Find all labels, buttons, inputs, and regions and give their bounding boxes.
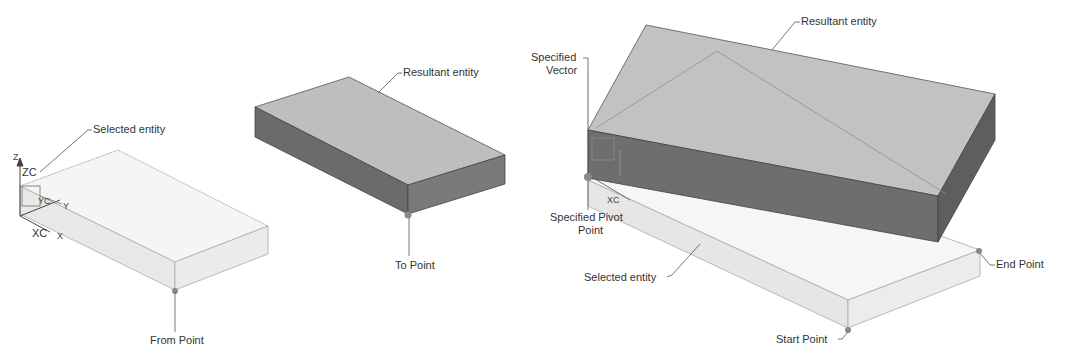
selected-entity-box-left (20, 150, 268, 290)
label-start-point: Start Point (776, 333, 827, 345)
leader-specified-vector (583, 58, 588, 72)
axis-x: X (57, 231, 63, 241)
label-specified-vector-line2: Vector (546, 64, 578, 76)
axis-xc: XC (32, 227, 47, 239)
label-selected-entity-right: Selected entity (584, 271, 657, 283)
axis-yc: YC (38, 196, 51, 206)
leader-end-point (980, 253, 995, 265)
label-pivot-point-line2: Point (578, 224, 603, 236)
axis-xc-right: XC (607, 195, 620, 205)
axis-y: Y (63, 201, 69, 211)
label-selected-entity-left: Selected entity (93, 123, 166, 135)
leader-resultant-middle (378, 73, 402, 93)
end-point-marker (976, 248, 982, 254)
label-from-point: From Point (150, 334, 204, 346)
label-resultant-entity-middle: Resultant entity (403, 66, 479, 78)
label-resultant-entity-right: Resultant entity (801, 15, 877, 27)
to-point-marker (405, 212, 412, 219)
diagram-canvas: Z ZC YC Y XC X Selected entity From Poin… (0, 0, 1065, 357)
label-end-point: End Point (996, 258, 1044, 270)
pivot-point-marker (584, 173, 592, 181)
resultant-entity-box-middle (255, 77, 505, 214)
label-specified-vector-line1: Specified (531, 51, 576, 63)
axis-zc: ZC (22, 166, 37, 178)
label-pivot-point-line1: Specified Pivot (550, 211, 623, 223)
axis-z: Z (13, 152, 19, 162)
leader-start-point (838, 332, 848, 339)
leader-resultant-right (772, 22, 800, 50)
label-to-point: To Point (395, 259, 435, 271)
transform-diagram: Z ZC YC Y XC X Selected entity From Poin… (0, 0, 1065, 357)
